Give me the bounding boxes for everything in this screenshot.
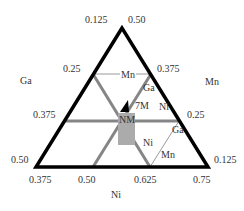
triangle-frame <box>36 28 208 167</box>
left-tick-2: 0.375 <box>33 110 56 120</box>
corner-label-ga: Ga <box>20 76 32 86</box>
right-tick-3: 0.125 <box>214 155 237 165</box>
region-label-7m: 7M <box>135 101 149 111</box>
bottom-tick-1: 0.50 <box>78 175 96 185</box>
right-tick-2: 0.25 <box>187 110 205 120</box>
line-label-top-mn: Mn <box>120 70 136 80</box>
right-tick-0: 0.50 <box>128 15 146 25</box>
line-label-lower-ni: Ni <box>143 138 153 148</box>
left-tick-0: 0.125 <box>85 15 108 25</box>
line-label-right-mn: Mn <box>161 150 175 160</box>
line-label-top-ga: Ga <box>143 83 155 93</box>
line-label-mid-ni: Ni <box>159 102 169 112</box>
bottom-tick-2: 0.625 <box>134 175 157 185</box>
line-label-right-ga: Ga <box>172 125 184 135</box>
seven-m-region <box>120 100 129 112</box>
bottom-tick-3: 0.75 <box>193 175 211 185</box>
region-label-nm: NM <box>119 115 135 125</box>
bottom-tick-0: 0.375 <box>29 175 52 185</box>
corner-label-mn: Mn <box>205 77 219 87</box>
right-tick-1: 0.375 <box>157 64 180 74</box>
corner-label-ni: Ni <box>111 190 121 200</box>
left-tick-1: 0.25 <box>63 64 81 74</box>
left-tick-3: 0.50 <box>11 155 29 165</box>
